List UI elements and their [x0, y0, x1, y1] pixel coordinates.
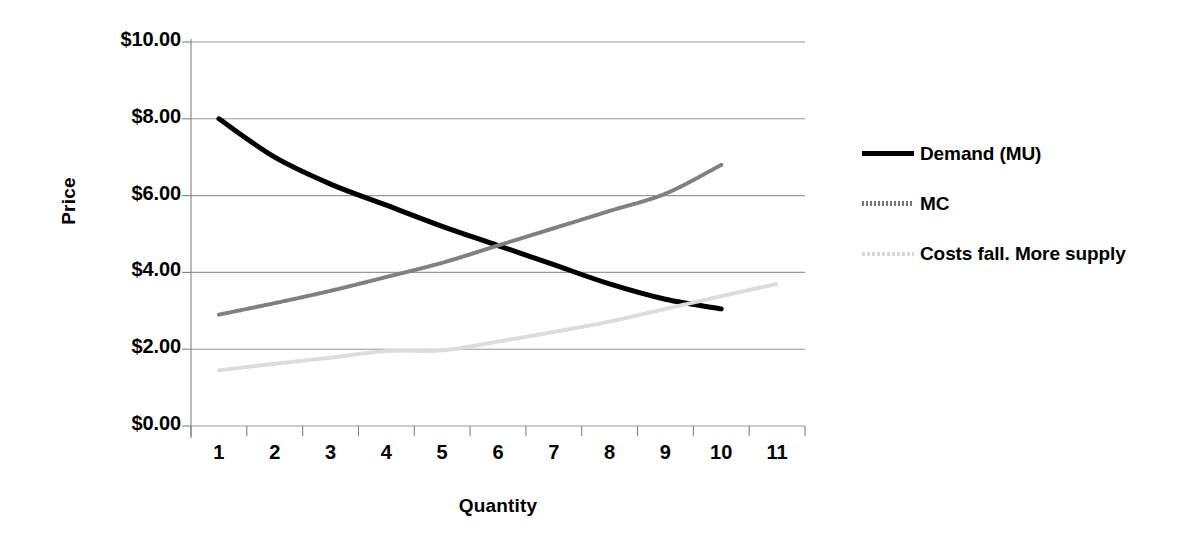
legend-swatch-mc [862, 197, 914, 211]
x-axis-tick-label: 5 [414, 437, 470, 471]
legend-label-mc: MC [920, 193, 949, 215]
legend-item-costs-fall[interactable]: Costs fall. More supply [862, 243, 1172, 265]
gridlines [182, 42, 805, 426]
x-axis-tick-label: 6 [470, 437, 526, 471]
x-axis-ticks [191, 426, 805, 436]
x-axis-tick-label: 10 [693, 437, 749, 471]
legend-item-demand[interactable]: Demand (MU) [862, 143, 1172, 165]
x-axis-tick-label: 9 [638, 437, 694, 471]
chart-legend: Demand (MU) MC Costs fall. More supply [862, 143, 1172, 293]
series-lines [219, 119, 777, 371]
legend-label-demand: Demand (MU) [920, 143, 1041, 165]
x-axis-tick-label: 1 [191, 437, 247, 471]
x-axis-tick-label: 11 [749, 437, 805, 471]
chart-canvas: Price $0.00$2.00$4.00$6.00$8.00$10.00 12… [0, 0, 1181, 556]
series-line-0 [219, 119, 721, 309]
legend-swatch-costs-fall [862, 247, 914, 261]
x-axis-tick-label: 7 [526, 437, 582, 471]
legend-label-costs-fall: Costs fall. More supply [920, 243, 1126, 265]
x-axis-tick-label: 8 [582, 437, 638, 471]
x-axis-tick-label: 4 [358, 437, 414, 471]
x-axis-tick-label: 3 [303, 437, 359, 471]
x-axis-tick-label: 2 [247, 437, 303, 471]
legend-swatch-demand [862, 147, 914, 161]
x-axis-tick-labels: 1234567891011 [191, 437, 805, 471]
x-axis-title: Quantity [191, 495, 805, 517]
legend-item-mc[interactable]: MC [862, 193, 1172, 215]
